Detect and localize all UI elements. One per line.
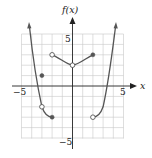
x-tick-neg5: −5 [13,87,27,97]
closed-point-neg3-1 [40,74,44,78]
y-tick-pos5: 5 [65,34,71,44]
closed-point-2-3 [91,53,95,57]
right-branch-arrow-icon [114,22,118,29]
open-point-neg3-neg2 [40,105,45,110]
y-axis-label: f(x) [61,4,79,15]
open-point-neg2-3 [50,53,55,58]
open-point-0-2 [70,63,75,68]
y-tick-neg5: −5 [59,137,73,147]
function-graph: f(x) x −5 5 5 −5 [0,0,152,158]
left-branch-arrow-icon [27,22,31,29]
x-tick-pos5: 5 [120,87,126,97]
left-branch [30,27,53,117]
x-axis-label: x [140,80,146,91]
open-point-2-neg3 [91,115,96,120]
right-branch [93,27,116,117]
y-axis-arrow-icon [70,17,76,24]
closed-point-neg2-neg3 [50,115,54,119]
x-axis-arrow-icon [130,83,137,89]
